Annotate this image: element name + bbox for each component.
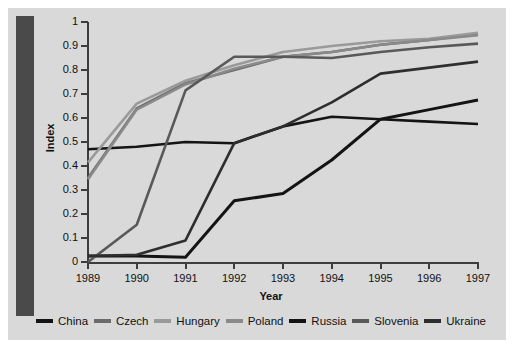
y-tick-label: 0	[42, 256, 78, 267]
y-tick-label: 1	[42, 16, 78, 27]
series-line-china	[88, 117, 478, 149]
legend-label: Czech	[116, 315, 149, 327]
x-tick-mark	[428, 262, 430, 269]
legend-label: Poland	[248, 315, 284, 327]
legend-item-russia[interactable]: Russia	[289, 315, 346, 327]
legend-item-china[interactable]: China	[36, 315, 88, 327]
y-tick-label: 0.6	[42, 112, 78, 123]
x-tick-mark	[136, 262, 138, 269]
y-tick-label: 0.4	[42, 160, 78, 171]
x-tick-label: 1994	[309, 272, 355, 284]
legend-item-hungary[interactable]: Hungary	[154, 315, 219, 327]
legend-label: Hungary	[176, 315, 219, 327]
legend-item-poland[interactable]: Poland	[226, 315, 284, 327]
y-tick-mark	[81, 141, 88, 143]
x-tick-mark	[233, 262, 235, 269]
y-axis-tick-labels: 00.10.20.30.40.50.60.70.80.91	[40, 14, 78, 274]
x-tick-mark	[477, 262, 479, 269]
legend-swatch-icon	[154, 319, 171, 323]
y-tick-mark	[81, 117, 88, 119]
legend-swatch-icon	[36, 319, 53, 323]
legend-swatch-icon	[352, 319, 369, 323]
series-line-russia	[88, 100, 478, 257]
x-tick-mark	[282, 262, 284, 269]
chart-legend: ChinaCzechHungaryPolandRussiaSloveniaUkr…	[14, 310, 504, 332]
y-tick-mark	[81, 69, 88, 71]
y-tick-label: 0.2	[42, 208, 78, 219]
series-line-ukraine	[88, 62, 478, 256]
y-tick-label: 0.3	[42, 184, 78, 195]
plot-area: Index 00.10.20.30.40.50.60.70.80.91 1989…	[40, 14, 502, 289]
y-tick-mark	[81, 93, 88, 95]
series-canvas	[88, 22, 478, 262]
x-tick-label: 1996	[406, 272, 452, 284]
y-tick-label: 0.5	[42, 136, 78, 147]
x-tick-label: 1993	[260, 272, 306, 284]
x-tick-mark	[185, 262, 187, 269]
legend-label: Slovenia	[374, 315, 418, 327]
x-tick-label: 1989	[65, 272, 111, 284]
legend-swatch-icon	[289, 319, 306, 323]
y-tick-mark	[81, 21, 88, 23]
legend-label: Russia	[311, 315, 346, 327]
chart-screenshot: Index 00.10.20.30.40.50.60.70.80.91 1989…	[0, 0, 514, 348]
x-tick-mark	[331, 262, 333, 269]
legend-swatch-icon	[226, 319, 243, 323]
x-tick-label: 1991	[163, 272, 209, 284]
legend-label: China	[58, 315, 88, 327]
legend-item-ukraine[interactable]: Ukraine	[424, 315, 486, 327]
x-tick-label: 1992	[211, 272, 257, 284]
y-tick-mark	[81, 237, 88, 239]
left-margin-bar	[16, 16, 34, 316]
x-axis-title: Year	[40, 290, 502, 302]
x-tick-label: 1990	[114, 272, 160, 284]
y-tick-mark	[81, 189, 88, 191]
y-tick-mark	[81, 45, 88, 47]
x-tick-mark	[380, 262, 382, 269]
x-tick-mark	[87, 262, 89, 269]
y-tick-label: 0.8	[42, 64, 78, 75]
series-line-hungary	[88, 33, 478, 163]
series-line-slovenia	[88, 44, 478, 262]
x-tick-label: 1997	[455, 272, 501, 284]
legend-swatch-icon	[424, 319, 441, 323]
legend-item-slovenia[interactable]: Slovenia	[352, 315, 418, 327]
legend-label: Ukraine	[446, 315, 486, 327]
legend-swatch-icon	[94, 319, 111, 323]
y-tick-label: 0.7	[42, 88, 78, 99]
x-tick-label: 1995	[358, 272, 404, 284]
y-tick-mark	[81, 213, 88, 215]
line-series-group	[88, 22, 478, 262]
y-tick-label: 0.9	[42, 40, 78, 51]
y-tick-mark	[81, 165, 88, 167]
y-tick-label: 0.1	[42, 232, 78, 243]
legend-item-czech[interactable]: Czech	[94, 315, 149, 327]
